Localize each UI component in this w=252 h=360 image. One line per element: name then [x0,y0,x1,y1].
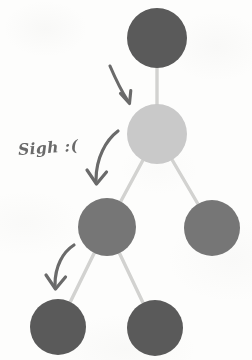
binary-tree-graphic [0,0,252,360]
diagram-canvas: Sigh :( [0,0,252,360]
right-child-node[interactable] [184,200,240,256]
tree-nodes [30,8,240,356]
leaf-node-right[interactable] [127,300,183,356]
leaf-node-left[interactable] [30,299,86,355]
highlighted-node[interactable] [127,104,187,164]
root-node[interactable] [127,8,187,68]
left-child-node[interactable] [78,198,136,256]
tree-edges [58,38,212,328]
traversal-arrow-level2-to-level3 [87,131,118,184]
traversal-arrows [46,66,131,289]
traversal-arrow-root-to-level2 [110,66,131,104]
traversal-arrow-level3-to-leaf [46,245,74,289]
